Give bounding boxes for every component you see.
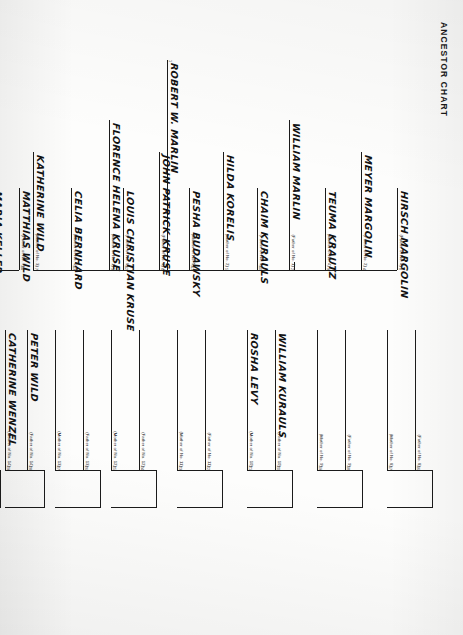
person-rule-20 xyxy=(275,330,276,470)
person-node-26[interactable]: (Father of No. 13) 26 xyxy=(83,330,101,470)
person-rule-9 xyxy=(325,188,326,270)
person-number-1: 1 xyxy=(169,60,173,62)
person-relation-8: (Father of No. 4) xyxy=(399,235,404,267)
person-rule-27 xyxy=(55,330,56,470)
person-name-28: PETER WILD xyxy=(29,332,40,402)
person-number-6: 6 xyxy=(161,268,165,270)
person-relation-14: (Father of No. 7) xyxy=(21,235,26,267)
person-node-9[interactable]: TEUMA KRAUTZ (Mother of No. 4) 9 xyxy=(325,188,345,270)
person-node-29[interactable]: CATHERINE WENZEL (Mother of No. 14) 29 xyxy=(5,330,23,470)
person-relation-24: (Father of No. 12) xyxy=(141,432,146,467)
person-rule-3 xyxy=(109,120,110,270)
person-node-18[interactable]: (Father of No. 9) 18 xyxy=(345,330,363,470)
connector-couple-8-9 xyxy=(325,270,397,271)
person-node-23[interactable]: (Mother of No. 11) 23 xyxy=(177,330,195,470)
person-node-27[interactable]: (Mother of No. 13) 27 xyxy=(55,330,73,470)
person-node-4[interactable]: MEYER MARGOLIN (Father of No. 2) 4 xyxy=(361,152,383,270)
edge-stub-26-27 xyxy=(55,470,101,508)
person-rule-10 xyxy=(257,188,258,270)
person-relation-5: (Mother of No. 2) xyxy=(225,234,230,267)
person-rule-16 xyxy=(415,330,416,470)
person-rule-11 xyxy=(189,188,190,270)
person-node-15[interactable]: MARIA KELLER (Mother of No. 7) 15 xyxy=(0,188,11,270)
person-name-29: CATHERINE WENZEL xyxy=(7,332,18,447)
person-name-21: ROSHA LEVY xyxy=(249,332,260,405)
person-number-12: 12 xyxy=(125,266,129,270)
connector-couple-12-13 xyxy=(71,270,123,271)
person-relation-2: (Father of No. 1) xyxy=(291,235,296,267)
person-node-14[interactable]: MATTHIAS WILD (Father of No. 7) 14 xyxy=(19,188,39,270)
person-rule-13 xyxy=(71,188,72,270)
person-name-20: WILLIAM KURAULS xyxy=(277,332,288,439)
edge-stub-18-19 xyxy=(317,470,363,508)
person-node-20[interactable]: WILLIAM KURAULS (Father of No. 10) 20 xyxy=(275,330,293,470)
person-rule-6 xyxy=(159,152,160,270)
person-relation-4: (Father of No. 2) xyxy=(363,235,368,267)
person-node-28[interactable]: PETER WILD (Father of No. 14) 28 xyxy=(27,330,45,470)
person-node-19[interactable]: (Mother of No. 9) 19 xyxy=(317,330,335,470)
person-relation-12: (Father of No. 6) xyxy=(125,235,130,267)
person-relation-25: (Mother of No. 12) xyxy=(113,431,118,467)
person-name-15: MARIA KELLER xyxy=(0,190,4,274)
person-rule-28 xyxy=(27,330,28,470)
connector-couple-14-15 xyxy=(0,270,19,271)
page-title: ANCESTOR CHART xyxy=(439,22,449,117)
person-node-11[interactable]: PESHA BUDAWSKY (Mother of No. 5) 11 xyxy=(189,188,209,270)
ancestor-chart-page: ANCESTOR CHART ROBERT W. MARLIN 1 WILLIA… xyxy=(0,0,463,635)
person-relation-28: (Father of No. 14) xyxy=(29,432,34,467)
person-rule-18 xyxy=(345,330,346,470)
connector-couple-10-11 xyxy=(189,270,257,271)
person-node-30[interactable]: JOHN KELLER (Father of No. 15) 30 xyxy=(0,330,1,470)
person-rule-5 xyxy=(223,152,224,270)
person-node-13[interactable]: CELIA BERNHARD (Mother of No. 6) 13 xyxy=(71,188,91,270)
person-rule-24 xyxy=(139,330,140,470)
person-name-2: WILLIAM MARLIN xyxy=(291,122,302,220)
person-rule-23 xyxy=(177,330,178,470)
person-rule-17 xyxy=(387,330,388,470)
edge-stub-16-17 xyxy=(387,470,433,508)
edge-stub-30-31 xyxy=(0,470,1,508)
person-relation-23: (Mother of No. 11) xyxy=(179,432,184,467)
person-relation-9: (Mother of No. 4) xyxy=(327,234,332,267)
person-relation-19: (Mother of No. 9) xyxy=(319,434,324,467)
person-node-25[interactable]: (Mother of No. 12) 25 xyxy=(111,330,129,470)
person-relation-29: (Mother of No. 14) xyxy=(7,431,12,467)
person-relation-13: (Mother of No. 6) xyxy=(73,234,78,267)
person-rule-2 xyxy=(289,120,290,270)
person-node-17[interactable]: (Mother of No. 8) 17 xyxy=(387,330,405,470)
person-rule-19 xyxy=(317,330,318,470)
edge-stub-22-23 xyxy=(177,470,223,508)
person-relation-6: (Father of No. 3) xyxy=(161,235,166,267)
person-relation-18: (Father of No. 9) xyxy=(347,435,352,467)
person-relation-21: (Mother of No. 10) xyxy=(249,431,254,467)
person-rule-26 xyxy=(83,330,84,470)
person-node-10[interactable]: CHAIM KURAULS (Father of No. 5) 10 xyxy=(257,188,277,270)
person-relation-17: (Mother of No. 8) xyxy=(389,434,394,467)
person-node-24[interactable]: (Father of No. 12) 24 xyxy=(139,330,157,470)
person-number-10: 10 xyxy=(259,266,263,270)
person-node-2[interactable]: WILLIAM MARLIN (Father of No. 1) 2 xyxy=(289,120,313,270)
edge-stub-28-29 xyxy=(5,470,45,508)
person-node-22[interactable]: (Father of No. 11) 22 xyxy=(205,330,223,470)
person-relation-11: (Mother of No. 5) xyxy=(191,234,196,267)
edge-stub-24-25 xyxy=(111,470,157,508)
person-node-6[interactable]: JOHN PATRICK KRUSE (Father of No. 3) 6 xyxy=(159,152,181,270)
person-number-14: 14 xyxy=(21,266,25,270)
person-node-5[interactable]: HILDA KORELIS (Mother of No. 2) 5 xyxy=(223,152,245,270)
person-number-8: 8 xyxy=(399,268,403,270)
person-node-8[interactable]: HIRSCH MARGOLIN (Father of No. 4) 8 xyxy=(397,188,417,270)
person-rule-21 xyxy=(247,330,248,470)
person-rule-22 xyxy=(205,330,206,470)
person-rule-14 xyxy=(19,188,20,270)
person-name-5: HILDA KORELIS xyxy=(225,154,236,242)
person-node-12[interactable]: LOUIS CHRISTIAN KRUSE (Father of No. 6) … xyxy=(123,188,143,270)
person-relation-10: (Father of No. 5) xyxy=(259,235,264,267)
person-rule-29 xyxy=(5,330,6,470)
person-node-16[interactable]: (Father of No. 8) 16 xyxy=(415,330,433,470)
person-relation-22: (Father of No. 11) xyxy=(207,432,212,467)
person-rule-8 xyxy=(397,188,398,270)
person-node-21[interactable]: ROSHA LEVY (Mother of No. 10) 21 xyxy=(247,330,265,470)
person-relation-16: (Father of No. 8) xyxy=(417,435,422,467)
person-relation-20: (Father of No. 10) xyxy=(277,432,282,467)
person-rule-12 xyxy=(123,188,124,270)
